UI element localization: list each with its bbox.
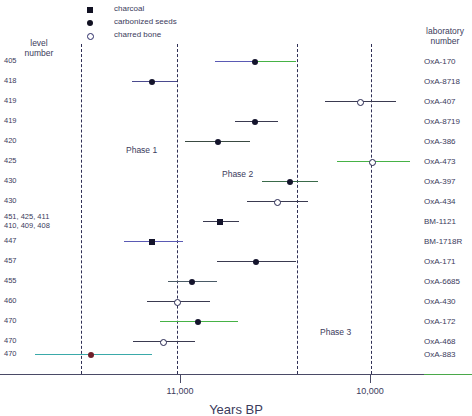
error-bar <box>132 81 177 82</box>
phase-label-2: Phase 2 <box>222 169 253 179</box>
error-bar <box>247 201 308 202</box>
x-axis-tick <box>370 374 371 383</box>
error-bar <box>168 281 217 282</box>
x-axis-tick <box>180 374 181 383</box>
data-point-oxa-407 <box>357 99 364 106</box>
error-bar <box>337 161 410 162</box>
error-bar <box>215 61 258 62</box>
level-number-label: 420 <box>4 137 17 146</box>
filled-square-icon <box>86 6 95 15</box>
level-number-label: 419 <box>4 117 17 126</box>
plot-area: Phase 1Phase 2Phase 3 <box>0 0 472 416</box>
level-number-label: 425 <box>4 157 17 166</box>
radiocarbon-date-chart: levelnumber laboratorynumber charcoalcar… <box>0 0 472 416</box>
level-number-label: 419 <box>4 97 17 106</box>
error-bar <box>262 181 318 182</box>
error-bar <box>160 321 238 322</box>
data-point-bm-1718r <box>149 239 155 245</box>
legend-item-label: charred bone <box>114 30 161 39</box>
phase-label-1: Phase 1 <box>126 145 157 155</box>
error-bar <box>35 354 152 355</box>
x-axis-tick-label: 11,000 <box>167 386 194 396</box>
data-point-oxa-172 <box>195 319 201 325</box>
laboratory-number-label: OxA-397 <box>424 177 456 186</box>
legend-item-open-circle: charred bone <box>86 29 236 42</box>
error-bar <box>258 61 296 62</box>
laboratory-number-label: OxA-434 <box>424 197 456 206</box>
laboratory-number-label: OxA-407 <box>424 97 456 106</box>
data-point-oxa-8718 <box>149 79 155 85</box>
laboratory-number-label: OxA-6685 <box>424 277 460 286</box>
phase-divider-1 <box>81 44 82 374</box>
data-point-bm-1121 <box>217 219 223 225</box>
level-number-label: 457 <box>4 257 17 266</box>
x-axis-tick-label: 10,000 <box>356 386 384 396</box>
data-point-oxa-171 <box>253 259 259 265</box>
laboratory-number-label: OxA-468 <box>424 337 456 346</box>
level-number-column-header: levelnumber <box>8 38 70 58</box>
error-bar <box>124 241 183 242</box>
phase-divider-2 <box>177 44 178 374</box>
legend: charcoalcarbonized seedscharred bone <box>86 3 236 42</box>
data-point-oxa-397 <box>287 179 293 185</box>
level-number-label: 470 <box>4 317 17 326</box>
data-point-oxa-8719 <box>252 119 258 125</box>
level-number-label: 451, 425, 411410, 409, 408 <box>4 213 50 230</box>
laboratory-number-label: OxA-430 <box>424 297 456 306</box>
legend-item-label: carbonized seeds <box>114 17 177 26</box>
error-bar <box>325 101 396 102</box>
laboratory-number-label: OxA-172 <box>424 317 456 326</box>
x-axis-line <box>0 374 472 375</box>
x-axis-line-green-extension <box>424 374 472 375</box>
level-number-label: 430 <box>4 197 17 206</box>
open-circle-icon <box>86 32 95 41</box>
error-bar <box>235 121 278 122</box>
data-point-oxa-430 <box>174 299 181 306</box>
laboratory-number-label: OxA-171 <box>424 257 456 266</box>
error-bar <box>217 261 296 262</box>
level-number-label: 418 <box>4 77 17 86</box>
level-number-label: 455 <box>4 277 17 286</box>
level-number-label: 470 <box>4 337 17 346</box>
level-number-label: 460 <box>4 297 17 306</box>
laboratory-number-column-header: laboratorynumber <box>418 26 472 46</box>
laboratory-number-label: OxA-8719 <box>424 117 460 126</box>
phase-divider-4 <box>371 44 372 374</box>
data-point-oxa-170 <box>252 59 258 65</box>
data-point-oxa-386 <box>215 139 221 145</box>
laboratory-number-label: OxA-386 <box>424 137 456 146</box>
legend-item-filled-square: charcoal <box>86 3 236 16</box>
data-point-oxa-434 <box>274 199 281 206</box>
x-axis-title: Years BP <box>0 402 472 416</box>
error-bar <box>185 141 250 142</box>
phase-divider-3 <box>297 44 298 374</box>
error-bar <box>133 341 195 342</box>
legend-item-label: charcoal <box>114 4 144 13</box>
laboratory-number-label: BM-1121 <box>424 217 456 226</box>
filled-circle-icon <box>86 19 95 28</box>
laboratory-number-label: OxA-883 <box>424 350 456 359</box>
level-number-label: 430 <box>4 177 17 186</box>
data-point-oxa-468 <box>160 339 167 346</box>
error-bar <box>147 301 210 302</box>
data-point-oxa-6685 <box>189 279 195 285</box>
laboratory-number-label: BM-1718R <box>424 237 462 246</box>
data-point-oxa-473 <box>369 159 376 166</box>
laboratory-number-label: OxA-8718 <box>424 77 460 86</box>
legend-item-filled-circle: carbonized seeds <box>86 16 236 29</box>
data-point-oxa-883 <box>88 352 94 358</box>
error-bar <box>203 221 239 222</box>
phase-label-3: Phase 3 <box>320 327 351 337</box>
laboratory-number-label: OxA-170 <box>424 57 456 66</box>
level-number-label: 447 <box>4 237 17 246</box>
level-number-label: 470 <box>4 350 17 359</box>
level-number-label: 405 <box>4 57 17 66</box>
laboratory-number-label: OxA-473 <box>424 157 456 166</box>
